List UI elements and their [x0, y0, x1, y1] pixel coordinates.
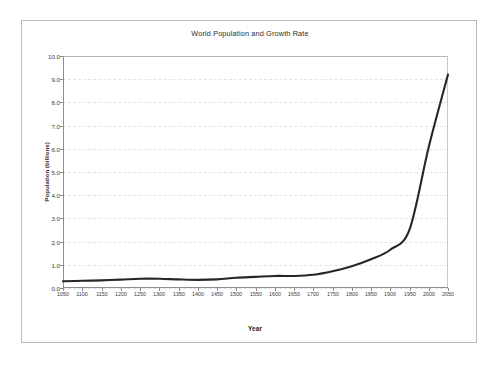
x-tick-label-1450: 1450	[211, 291, 223, 297]
figure-frame: World Population and Growth Rate 0.01.02…	[21, 20, 477, 343]
x-tick-label-1300: 1300	[153, 291, 165, 297]
x-tick-label-1500: 1500	[230, 291, 242, 297]
y-axis-title: Population (billions)	[43, 142, 50, 201]
y-tick-label-7.0: 7.0	[51, 122, 60, 129]
y-tick-mark	[60, 265, 63, 266]
x-axis-title: Year	[248, 325, 262, 332]
x-tick-label-1250: 1250	[134, 291, 146, 297]
chart-title: World Population and Growth Rate	[22, 29, 478, 38]
y-tick-label-2.0: 2.0	[51, 238, 60, 245]
series-line-world-population	[63, 56, 448, 288]
y-tick-mark	[60, 126, 63, 127]
y-tick-label-9.0: 9.0	[51, 76, 60, 83]
x-tick-label-1750: 1750	[327, 291, 339, 297]
x-tick-label-1800: 1800	[346, 291, 358, 297]
x-tick-label-1050: 1050	[57, 291, 69, 297]
y-tick-label-5.0: 5.0	[51, 169, 60, 176]
plot-area: 0.01.02.03.04.05.06.07.08.09.010.0105011…	[63, 56, 448, 288]
x-tick-label-2000: 2000	[423, 291, 435, 297]
x-tick-label-1100: 1100	[77, 291, 88, 297]
x-tick-label-1350: 1350	[173, 291, 185, 297]
y-tick-mark	[60, 102, 63, 103]
x-tick-label-1700: 1700	[307, 291, 319, 297]
x-tick-label-1400: 1400	[192, 291, 204, 297]
y-tick-mark	[60, 172, 63, 173]
y-tick-label-3.0: 3.0	[51, 215, 60, 222]
y-tick-mark	[60, 218, 63, 219]
x-tick-label-1200: 1200	[115, 291, 127, 297]
x-tick-label-1150: 1150	[96, 291, 107, 297]
x-tick-label-1550: 1550	[250, 291, 262, 297]
x-tick-label-1900: 1900	[384, 291, 396, 297]
y-tick-label-6.0: 6.0	[51, 145, 60, 152]
y-tick-mark	[60, 79, 63, 80]
x-tick-label-1600: 1600	[269, 291, 281, 297]
y-tick-label-8.0: 8.0	[51, 99, 60, 106]
x-tick-label-2050: 2050	[442, 291, 454, 297]
y-tick-mark	[60, 242, 63, 243]
y-tick-label-1.0: 1.0	[51, 261, 60, 268]
x-tick-label-1850: 1850	[365, 291, 377, 297]
x-tick-label-1950: 1950	[404, 291, 416, 297]
x-tick-label-1650: 1650	[288, 291, 300, 297]
y-tick-mark	[60, 56, 63, 57]
y-tick-mark	[60, 195, 63, 196]
y-tick-mark	[60, 149, 63, 150]
y-tick-label-10.0: 10.0	[48, 53, 60, 60]
y-tick-label-4.0: 4.0	[51, 192, 60, 199]
